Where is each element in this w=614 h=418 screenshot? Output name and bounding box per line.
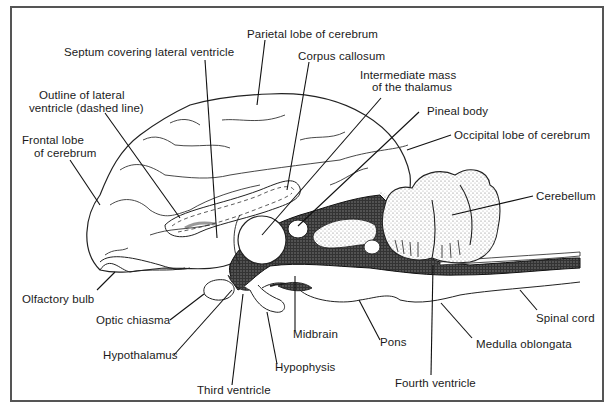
label-frontal-lobe-1: Frontal lobe [22,133,84,147]
label-outline-lateral-2: ventricle (dashed line) [29,101,144,115]
label-intermediate-mass-2: of the thalamus [372,80,452,94]
label-spinal-cord: Spinal cord [536,311,595,325]
label-pineal-body: Pineal body [427,104,488,118]
label-midbrain: Midbrain [293,327,338,341]
label-fourth-ventricle: Fourth ventricle [395,376,476,390]
label-optic-chiasma: Optic chiasma [96,313,170,327]
label-medulla-oblongata: Medulla oblongata [476,337,572,351]
label-hypothalamus: Hypothalamus [103,348,178,362]
label-occipital-lobe: Occipital lobe of cerebrum [454,128,590,142]
brainstem-outline [262,282,580,302]
label-cerebellum: Cerebellum [536,189,596,203]
label-septum: Septum covering lateral ventricle [64,45,234,59]
thalamus-circle [238,216,286,264]
label-outline-lateral-1: Outline of lateral [39,88,125,102]
label-corpus-callosum: Corpus callosum [298,49,385,63]
label-frontal-lobe-2: of cerebrum [34,146,96,160]
label-pons: Pons [380,335,407,349]
label-third-ventricle: Third ventricle [197,383,271,397]
label-olfactory-bulb: Olfactory bulb [22,292,94,306]
label-hypophysis: Hypophysis [275,360,335,374]
label-parietal-lobe: Parietal lobe of cerebrum [247,27,378,41]
